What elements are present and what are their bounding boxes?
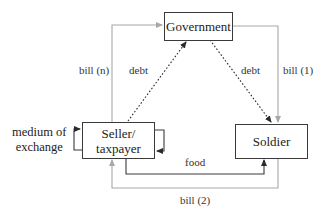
medium-of-exchange-label: medium of exchange: [12, 125, 67, 155]
debt-left-arrow: [128, 42, 186, 121]
bill-1-label: bill (1): [283, 64, 313, 76]
seller-label-line2: taxpayer: [96, 141, 141, 156]
medium-label-line2: exchange: [12, 140, 67, 155]
food-label: food: [185, 156, 205, 168]
soldier-label: Soldier: [253, 134, 291, 149]
bill-n-label: bill (n): [79, 64, 109, 76]
seller-label-line1: Seller/: [102, 126, 136, 141]
government-node: Government: [164, 12, 233, 41]
bill-2-label: bill (2): [180, 194, 210, 206]
debt-right-arrow: [210, 40, 271, 122]
government-label: Government: [166, 19, 231, 34]
medium-loop-left: [74, 129, 82, 150]
debt-left-label: debt: [129, 64, 148, 76]
medium-label-line1: medium of: [12, 125, 67, 140]
soldier-node: Soldier: [235, 124, 308, 159]
medium-loop-right: [155, 130, 164, 151]
seller-taxpayer-node: Seller/ taxpayer: [82, 122, 155, 159]
diagram-connectors: [0, 0, 322, 216]
debt-right-label: debt: [241, 64, 260, 76]
